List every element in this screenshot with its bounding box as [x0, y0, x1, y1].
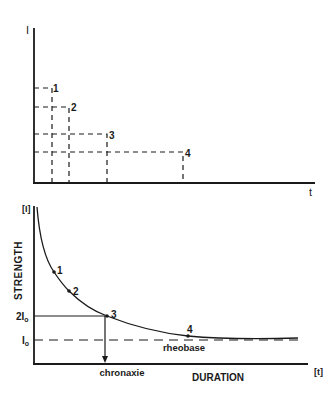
curve-label-2: 2 — [73, 286, 79, 297]
curve-point-1 — [52, 270, 56, 274]
chronaxie-label: chronaxie — [100, 367, 145, 378]
strength-axis-title: STRENGTH — [13, 241, 24, 300]
two-i0-label: 2Io — [16, 311, 29, 323]
pulse-label-4: 4 — [185, 148, 191, 159]
curve-points — [52, 270, 190, 338]
curve-point-3 — [105, 314, 109, 318]
pulse-label-3: 3 — [109, 130, 115, 141]
top-x-axis-label: t — [309, 186, 312, 198]
bottom-y-axis-label: [I] — [22, 204, 31, 214]
top-pulse-diagram: I t 1 2 3 4 — [26, 24, 315, 198]
rheobase-label: rheobase — [163, 342, 205, 353]
pulse-label-2: 2 — [71, 102, 77, 113]
arrow-down-icon — [102, 356, 108, 363]
i0-label: Io — [22, 335, 29, 347]
curve-label-1: 1 — [57, 265, 63, 276]
pulse-3 — [34, 134, 107, 183]
strength-duration-diagram: I t 1 2 3 4 [I] STRENGTH [t] DURATION 2I… — [0, 0, 333, 399]
curve-label-3: 3 — [111, 309, 117, 320]
pulse-4 — [34, 152, 183, 183]
bottom-x-axis-label: [t] — [314, 367, 323, 377]
top-y-axis-label: I — [26, 24, 29, 36]
strength-duration-curve — [37, 207, 298, 339]
curve-label-4: 4 — [187, 324, 193, 335]
pulse-label-1: 1 — [53, 83, 59, 94]
bottom-strength-duration-curve: [I] STRENGTH [t] DURATION 2Io Io 1 2 3 4… — [13, 204, 323, 383]
pulse-1 — [34, 88, 52, 183]
curve-point-2 — [67, 289, 71, 293]
duration-axis-title: DURATION — [192, 372, 244, 383]
